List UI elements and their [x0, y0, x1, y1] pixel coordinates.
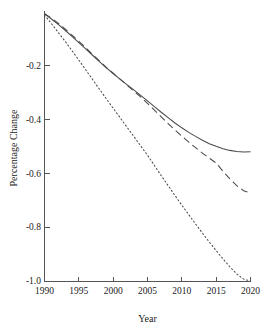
x-axis-ticks — [45, 277, 251, 282]
y-tick-label: -0.2 — [26, 61, 41, 71]
solid-series-line — [45, 14, 251, 152]
x-tick-label: 1990 — [35, 286, 54, 296]
x-tick-label: 2010 — [172, 286, 191, 296]
x-tick-label: 2020 — [241, 286, 260, 296]
x-axis-title: Year — [138, 313, 157, 324]
series-group — [45, 14, 251, 281]
y-axis-tick-labels: -0.2 -0.4 -0.6 -0.8 -1.0 — [26, 61, 41, 286]
x-tick-label: 1995 — [69, 286, 88, 296]
y-tick-label: -0.6 — [26, 169, 41, 179]
x-tick-label: 2015 — [207, 286, 226, 296]
chart-figure: -0.2 -0.4 -0.6 -0.8 -1.0 1990 1995 2000 … — [0, 0, 272, 332]
x-tick-label: 2000 — [104, 286, 123, 296]
y-tick-label: -0.4 — [26, 115, 41, 125]
x-axis-tick-labels: 1990 1995 2000 2005 2010 2015 2020 — [35, 286, 260, 296]
dashed-series-line — [45, 14, 251, 193]
line-chart: -0.2 -0.4 -0.6 -0.8 -1.0 1990 1995 2000 … — [0, 0, 272, 332]
y-axis-ticks — [45, 66, 50, 281]
y-axis-title: Percentage Change — [8, 109, 19, 186]
y-tick-label: -1.0 — [26, 276, 41, 286]
y-tick-label: -0.8 — [26, 222, 41, 232]
x-tick-label: 2005 — [138, 286, 157, 296]
